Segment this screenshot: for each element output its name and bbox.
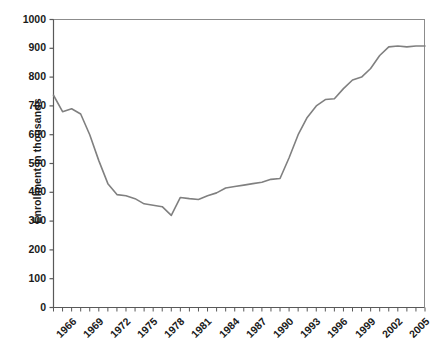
plot-area: [0, 0, 442, 351]
enrollment-line-chart: Enrollment in thousands 0100200300400500…: [0, 0, 442, 351]
axis-lines: [54, 19, 426, 308]
enrollment-series-line: [54, 46, 426, 215]
